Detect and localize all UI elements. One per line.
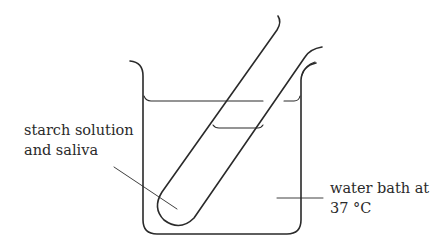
tube-contents-label: starch solution and saliva	[24, 120, 134, 160]
water-bath-label: water bath at 37 °C	[330, 178, 429, 218]
water-bath-label-line1: water bath at	[330, 178, 429, 198]
test-tube	[157, 16, 322, 226]
tube-liquid-surface	[213, 125, 263, 128]
tube-contents-label-line2: and saliva	[24, 140, 134, 160]
water-bath-label-line2: 37 °C	[330, 198, 429, 218]
tube-contents-label-line1: starch solution	[24, 120, 134, 140]
starch-leader-line	[114, 167, 177, 209]
